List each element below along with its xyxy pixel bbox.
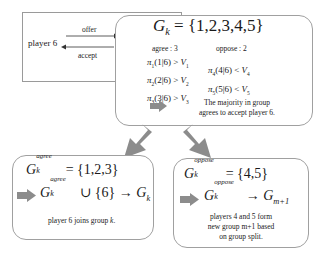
subscript: k	[214, 192, 218, 201]
agree-condition: π2(2|6) > V2	[147, 73, 189, 91]
caption-text: player 6 joins group	[48, 216, 110, 225]
accept-label: accept	[78, 51, 97, 60]
v-sub: 2	[186, 81, 189, 87]
oppose-conditions: π4(4|6) < V4 π5(5|6) < V5	[208, 63, 250, 101]
v-sub: 1	[186, 63, 189, 69]
majority-conclusion: The majority in group agrees to accept p…	[172, 98, 302, 118]
caption-line: players 4 and 5 form	[176, 212, 306, 222]
join-caption: player 6 joins group k.	[48, 216, 115, 225]
superscript: oppose	[194, 156, 214, 164]
right-arrow-icon	[180, 193, 200, 206]
group-symbol: G	[153, 16, 165, 35]
caption-end: .	[113, 216, 115, 225]
group-k-equation: Gk = {1,2,3,4,5}	[153, 16, 264, 37]
symbol: G	[184, 166, 194, 181]
target-sub: k	[146, 194, 150, 203]
v-sub: 5	[247, 90, 250, 96]
target: G	[136, 185, 146, 200]
agree-set-equation: Gagreek = {1,2,3}	[26, 162, 118, 178]
split-caption: players 4 and 5 form new group m+1 based…	[176, 212, 306, 242]
symbol: G	[26, 162, 36, 177]
conclusion-line: The majority in group	[172, 98, 302, 108]
cond: (5|6) <	[215, 84, 241, 94]
union-equation: Gagreek ∪ {6} → Gk	[40, 184, 150, 203]
symbol: G	[40, 185, 50, 200]
subscript: k	[36, 166, 40, 175]
v-sub: 4	[247, 71, 250, 77]
symbol: G	[204, 188, 214, 203]
conclusion-line: agrees to accept player 6.	[172, 108, 302, 118]
cond: (2|6) >	[154, 75, 180, 85]
set: = {1,2,3}	[62, 162, 118, 177]
arrow-text: →	[242, 188, 263, 203]
subscript: k	[194, 170, 198, 179]
sub-sup: opposek	[194, 168, 222, 178]
subscript: k	[50, 189, 54, 198]
sub-sup: agreek	[36, 164, 62, 174]
oppose-condition: π4(4|6) < V4	[208, 63, 250, 82]
target-sub: m+1	[273, 197, 289, 206]
caption-line: new group m+1 based	[176, 222, 306, 232]
superscript: agree	[50, 175, 66, 183]
agree-header: agree : 3	[152, 44, 178, 53]
agree-condition: π1(1|6) > V1	[147, 55, 189, 73]
cond: (1|6) >	[154, 57, 180, 67]
player-6-label: player 6	[28, 38, 57, 48]
sub-sup: agreek	[50, 187, 76, 197]
superscript: oppose	[214, 178, 234, 186]
offer-accept-arrows	[60, 30, 120, 52]
superscript: agree	[36, 152, 52, 160]
right-arrow-icon	[150, 100, 168, 112]
right-arrow-icon	[17, 189, 37, 202]
cond: (4|6) <	[215, 65, 241, 75]
new-group-equation: Gopposek → Gm+1	[204, 188, 289, 206]
union-text: ∪ {6} →	[76, 185, 136, 200]
sub-sup: opposek	[214, 190, 242, 200]
oppose-header: oppose : 2	[216, 44, 247, 53]
group-set: = {1,2,3,4,5}	[170, 16, 264, 35]
caption-line: on group split.	[176, 232, 306, 242]
target: G	[263, 188, 273, 203]
